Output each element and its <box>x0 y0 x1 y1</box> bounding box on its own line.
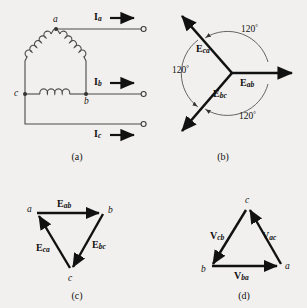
angle-label-left: 120° <box>172 65 189 75</box>
triangle-d-node-label-a: a <box>285 262 290 272</box>
node-label-b: b <box>84 97 89 107</box>
caption-panel-b: (b) <box>198 152 248 162</box>
vector-subscript-eab: ab <box>64 201 72 210</box>
angle-arc-top-right <box>205 31 268 62</box>
figure-container: a b c Ia Ib Ic Eab Eca Ebc 120° 120° 120… <box>0 0 307 308</box>
vector-symbol-ebc: E <box>92 239 99 250</box>
phasor-symbol-eab: E <box>240 77 247 88</box>
panel-a-nodes <box>23 27 88 96</box>
current-subscript-ic: c <box>98 131 101 140</box>
phasor-symbol-eca: E <box>196 43 203 54</box>
panel-b-phasors <box>182 16 292 131</box>
vector-subscript-vac: ac <box>269 233 276 242</box>
terminal-b <box>141 92 146 97</box>
angle-unit-left: ° <box>186 64 189 71</box>
caption-panel-d: (d) <box>219 291 269 301</box>
panel-a-terminals <box>141 27 146 127</box>
current-subscript-ib: b <box>98 79 102 88</box>
vector-symbol-eca: E <box>36 242 43 253</box>
phasor-e-bc <box>182 73 232 131</box>
phasor-label-eab: Eab <box>240 78 254 89</box>
coil-bc <box>25 89 86 94</box>
current-label-ib: Ib <box>94 77 102 88</box>
current-label-ia: Ia <box>94 12 102 23</box>
node-label-a: a <box>53 15 58 25</box>
panel-a-current-arrows <box>110 18 134 135</box>
current-label-ic: Ic <box>94 129 101 140</box>
angle-value-left: 120 <box>172 65 186 75</box>
phasor-subscript-ebc: bc <box>220 91 227 100</box>
vector-subscript-eca: ca <box>43 245 50 254</box>
triangle-d-node-label-b: b <box>201 265 206 275</box>
vector-symbol-eab: E <box>57 198 64 209</box>
angle-unit-bottom-right: ° <box>253 110 256 117</box>
angle-label-bottom-right: 120° <box>239 111 256 121</box>
phasor-label-ebc: Ebc <box>213 89 227 100</box>
phasor-label-eca: Eca <box>196 44 210 55</box>
vector-label-vba: Vba <box>234 271 249 282</box>
terminal-c <box>141 122 146 127</box>
triangle-c-node-label-b: b <box>108 206 113 216</box>
figure-vector-graphics <box>0 0 307 308</box>
angle-label-top-right: 120° <box>241 24 258 34</box>
vector-subscript-ebc: bc <box>99 242 106 251</box>
phasor-symbol-ebc: E <box>213 88 220 99</box>
triangle-c-node-label-a: a <box>27 205 32 215</box>
caption-panel-a: (a) <box>52 152 102 162</box>
vector-subscript-vba: ba <box>241 273 249 282</box>
vector-label-eab: Eab <box>57 199 71 210</box>
vector-label-vcb: Vcb <box>210 231 224 242</box>
panel-a-circuit <box>25 29 141 124</box>
line-c <box>25 94 141 124</box>
vector-label-vac: Vac <box>262 231 276 242</box>
current-subscript-ia: a <box>98 14 102 23</box>
triangle-c-node-label-c: c <box>68 274 72 284</box>
angle-value-bottom-right: 120 <box>239 111 253 121</box>
coil-ab <box>57 29 86 94</box>
triangle-d-node-label-c: c <box>245 196 249 206</box>
vector-subscript-vcb: cb <box>217 233 224 242</box>
vector-label-eca: Eca <box>36 243 50 254</box>
vector-e-ca <box>39 216 70 268</box>
phasor-subscript-eca: ca <box>203 46 210 55</box>
node-dot-a <box>54 27 58 31</box>
angle-value-top-right: 120 <box>241 24 255 34</box>
terminal-a <box>141 27 146 32</box>
phasor-subscript-eab: ab <box>247 80 255 89</box>
caption-panel-c: (c) <box>52 291 102 301</box>
node-dot-c <box>23 92 27 96</box>
coil-ca <box>25 29 54 94</box>
node-label-c: c <box>14 89 18 99</box>
vector-label-ebc: Ebc <box>92 240 106 251</box>
angle-unit-top-right: ° <box>255 23 258 30</box>
